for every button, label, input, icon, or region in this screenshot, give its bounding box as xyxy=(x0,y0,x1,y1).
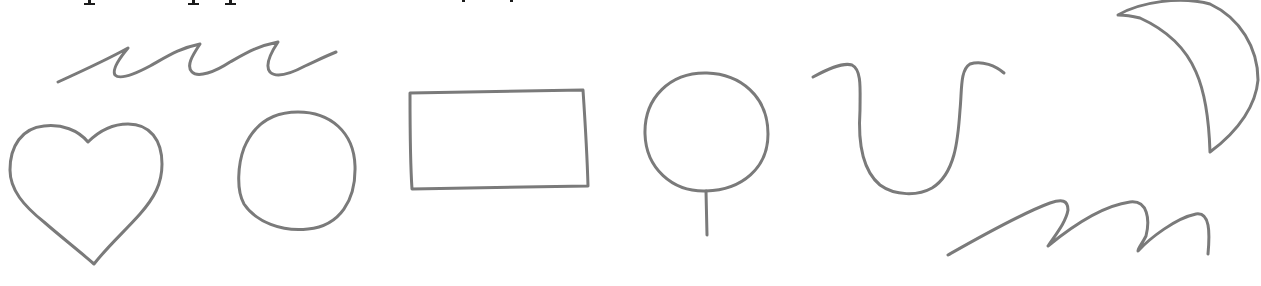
heart-shape xyxy=(10,124,162,264)
drawing-canvas xyxy=(0,0,1261,286)
wavy-line-bottom-shape xyxy=(948,201,1209,255)
clipped-text-fragments xyxy=(84,0,513,5)
circle-shape xyxy=(239,112,355,230)
lollipop-circle-shape xyxy=(645,73,768,191)
wavy-line-top-shape xyxy=(58,42,336,82)
rectangle-shape xyxy=(410,90,588,189)
u-curve-shape xyxy=(813,63,1004,194)
shapes-svg xyxy=(0,0,1261,286)
crescent-moon-shape xyxy=(1118,0,1258,152)
lollipop-stick-shape xyxy=(706,191,707,235)
